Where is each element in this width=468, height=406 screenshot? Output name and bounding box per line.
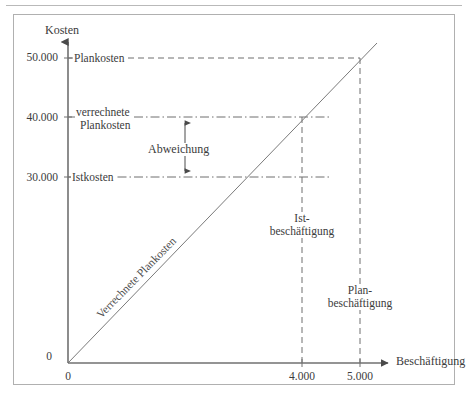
x-tick-label-4000: 4.000 <box>275 370 329 383</box>
y-tick-label-30000: 30.000 <box>0 171 58 184</box>
y-origin-label: 0 <box>0 350 52 363</box>
y-tick-label-50000: 50.000 <box>0 51 58 64</box>
x-axis-title: Beschäftigung <box>396 355 465 368</box>
x-axis <box>68 359 388 367</box>
x-origin-label: 0 <box>55 370 81 383</box>
y-axis <box>64 42 72 363</box>
label-plankosten: Plankosten <box>73 52 125 65</box>
label-verrechnete-plankosten-line2: Plankosten <box>79 119 131 132</box>
y-axis-title: Kosten <box>45 24 79 37</box>
y-tick-label-40000: 40.000 <box>0 111 58 124</box>
label-ist-beschaeftigung-line1: Ist- <box>252 212 352 225</box>
label-plan-beschaeftigung-line2: beschäftigung <box>310 297 410 310</box>
label-verrechnete-plankosten-line1: verrechnete <box>75 106 131 119</box>
series-verrechnete-plankosten <box>68 43 377 363</box>
label-ist-beschaeftigung-line2: beschäftigung <box>252 225 352 238</box>
label-abweichung: Abweichung <box>146 143 211 156</box>
label-istkosten: Istkosten <box>71 171 115 184</box>
label-plan-beschaeftigung-line1: Plan- <box>310 284 410 297</box>
chart-canvas <box>0 0 468 406</box>
x-tick-label-5000: 5.000 <box>333 370 387 383</box>
